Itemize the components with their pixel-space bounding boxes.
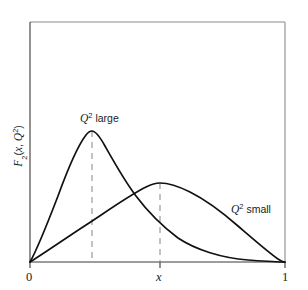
svg-text:F2(x, Q2): F2(x, Q2) <box>11 125 29 168</box>
annotation-q2-large: Q2 large <box>80 111 119 125</box>
curve-q2-small <box>30 183 285 262</box>
figure-container: 0 x 1 F2(x, Q2) Q2 large Q2 small <box>0 0 308 290</box>
x-tick-label-0: 0 <box>26 270 32 284</box>
annotation-q2-large-text: large <box>92 112 118 124</box>
x-tick-label-1: 1 <box>282 270 288 284</box>
curve-q2-large <box>30 131 285 262</box>
y-axis-title: F2(x, Q2) <box>11 125 29 168</box>
annotation-q2-small: Q2 small <box>231 202 271 216</box>
plot-canvas: 0 x 1 F2(x, Q2) Q2 large Q2 small <box>0 0 308 290</box>
x-tick-label-x: x <box>155 270 162 284</box>
y-axis-title-close-paren: ) <box>12 125 24 129</box>
annotation-q2-small-text: small <box>243 203 270 215</box>
